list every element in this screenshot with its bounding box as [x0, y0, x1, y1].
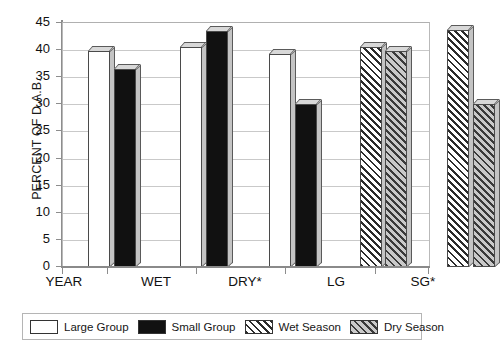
bar-top-face: [269, 49, 296, 54]
y-axis-tick-label: 15: [20, 178, 50, 191]
y-axis-tick-label: 10: [20, 205, 50, 218]
x-axis-tick-label: SG*: [378, 274, 468, 289]
y-axis-tick-label: 25: [20, 123, 50, 136]
bar-front-face: [88, 51, 110, 267]
y-axis-tick-mark: [56, 266, 61, 267]
legend-swatch: [350, 320, 378, 334]
bar-top-face: [114, 64, 141, 69]
y-axis-tick-mark: [56, 185, 61, 186]
bar: [295, 104, 317, 267]
y-axis-tick-mark: [56, 103, 61, 104]
y-axis-tick-mark: [56, 22, 61, 23]
legend-label: Small Group: [172, 321, 236, 333]
chart-legend: Large GroupSmall GroupWet SeasonDry Seas…: [22, 313, 422, 340]
y-axis-tick-label: 35: [20, 69, 50, 82]
bar-front-face: [180, 47, 202, 267]
legend-item: Wet Season: [245, 320, 341, 334]
bar: [473, 104, 495, 267]
x-axis-tick-label: LG: [291, 274, 381, 289]
bar-front-face: [360, 47, 382, 267]
bar: [385, 51, 407, 267]
bar-front-face: [269, 54, 291, 267]
bar-front-face: [114, 69, 136, 267]
legend-label: Wet Season: [279, 321, 341, 333]
legend-swatch: [30, 320, 58, 334]
y-axis-tick-mark: [56, 239, 61, 240]
x-axis-tick-label: YEAR: [19, 274, 109, 289]
y-axis-tick-label: 5: [20, 232, 50, 245]
legend-swatch: [138, 320, 166, 334]
bar: [180, 47, 202, 267]
bar: [269, 54, 291, 267]
bar-front-face: [295, 104, 317, 267]
x-axis-tick-label: DRY*: [200, 274, 290, 289]
bar: [114, 69, 136, 267]
bar-side-face: [136, 65, 141, 267]
bar: [88, 51, 110, 267]
legend-item: Small Group: [138, 320, 236, 334]
plot-area: [62, 22, 430, 268]
legend-label: Dry Season: [384, 321, 444, 333]
legend-label: Large Group: [64, 321, 129, 333]
legend-swatch: [245, 320, 273, 334]
legend-item: Large Group: [30, 320, 129, 334]
bar-side-face: [407, 47, 412, 267]
y-axis-tick-mark: [56, 158, 61, 159]
bar: [447, 30, 469, 267]
x-axis-tick-label: WET: [111, 274, 201, 289]
bar-top-face: [206, 26, 233, 31]
bar-front-face: [385, 51, 407, 267]
y-axis-tick-mark: [56, 130, 61, 131]
y-axis-tick-label: 0: [20, 259, 50, 272]
y-axis-tick-mark: [56, 49, 61, 50]
bar-side-face: [495, 100, 500, 267]
bar-front-face: [447, 30, 469, 267]
y-axis-tick-label: 30: [20, 96, 50, 109]
bar-side-face: [228, 27, 233, 267]
bar: [206, 31, 228, 267]
y-axis-tick-mark: [56, 76, 61, 77]
y-axis-tick-label: 40: [20, 42, 50, 55]
bar-top-face: [447, 25, 474, 30]
bar-front-face: [206, 31, 228, 267]
bar-side-face: [317, 100, 322, 267]
legend-item: Dry Season: [350, 320, 444, 334]
y-axis-tick-mark: [56, 212, 61, 213]
bar-top-face: [360, 42, 387, 47]
bar-front-face: [473, 104, 495, 267]
bar: [360, 47, 382, 267]
y-axis-tick-label: 45: [20, 15, 50, 28]
y-axis-tick-label: 20: [20, 151, 50, 164]
